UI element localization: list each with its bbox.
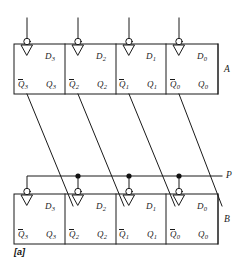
figure-caption: [a] — [14, 247, 25, 257]
register-b-q-label-2: Q2 — [97, 230, 107, 241]
register-b-d-label-2: D2 — [96, 202, 106, 213]
link-qbar3-to-d2 — [27, 94, 73, 206]
register-b-qbar-label-0: Q0 — [170, 230, 180, 241]
register-b-qbar-label-2: Q2 — [69, 230, 79, 241]
junction-dot-3 — [176, 173, 181, 178]
register-a-qbar-label-3: Q3 — [18, 80, 28, 91]
junction-dot-2 — [126, 173, 131, 178]
register-b-q-label-1: Q1 — [147, 230, 157, 241]
register-b-group-label: B — [224, 214, 230, 224]
register-b-qbar-label-1: Q1 — [119, 230, 129, 241]
link-qbar2-to-d1 — [78, 94, 124, 206]
cross-connection-lines — [27, 94, 222, 206]
register-b-q-label-0: Q0 — [198, 230, 208, 241]
register-b-qbar-label-3: Q3 — [18, 230, 28, 241]
register-a-group-label: A — [224, 64, 230, 74]
signal-label-p: P — [226, 170, 232, 180]
register-b-q-label-3: Q3 — [46, 230, 56, 241]
register-a-qbar-label-1: Q1 — [119, 80, 129, 91]
register-a-d-label-3: D3 — [45, 52, 55, 63]
figure-canvas: D3 D2 D1 D0 Q3 Q3 Q2 Q2 Q1 Q1 Q0 Q0 A D3… — [0, 0, 238, 262]
register-a-d-label-1: D1 — [146, 52, 156, 63]
register-a-qbar-label-2: Q2 — [69, 80, 79, 91]
register-a-q-label-1: Q1 — [147, 80, 157, 91]
register-a-d-label-2: D2 — [96, 52, 106, 63]
circuit-schematic — [0, 0, 238, 262]
register-a-q-label-2: Q2 — [97, 80, 107, 91]
register-b-d-label-0: D0 — [197, 202, 207, 213]
register-a-q-label-3: Q3 — [46, 80, 56, 91]
register-a-q-label-0: Q0 — [198, 80, 208, 91]
register-a-clock-inputs — [22, 18, 185, 55]
clock-bus-p — [27, 173, 222, 188]
register-a-d-label-0: D0 — [197, 52, 207, 63]
link-qbar0-out — [179, 94, 222, 206]
register-b-d-label-3: D3 — [45, 202, 55, 213]
junction-dot-1 — [75, 173, 80, 178]
link-qbar1-to-d0 — [129, 94, 175, 206]
register-b-d-label-1: D1 — [146, 202, 156, 213]
register-a-qbar-label-0: Q0 — [170, 80, 180, 91]
